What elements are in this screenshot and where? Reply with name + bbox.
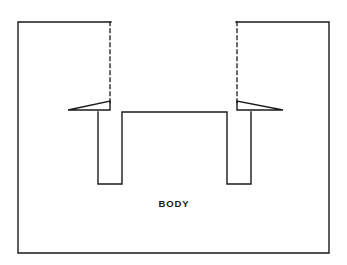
background-plate — [0, 0, 347, 265]
diagram-canvas: BODY — [0, 0, 347, 265]
body-text-label: BODY — [158, 198, 189, 209]
cross-section-drawing: BODY — [0, 0, 347, 265]
